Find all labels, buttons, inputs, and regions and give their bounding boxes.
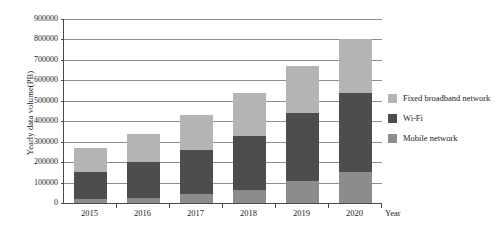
- x-tick-mark: [222, 204, 223, 208]
- legend-item[interactable]: Mobile network: [388, 128, 490, 148]
- stacked-bar-chart: Yearly data volume(PB) 90000080000070000…: [0, 0, 501, 234]
- y-axis-title: Yearly data volume(PB): [25, 23, 35, 203]
- bar-segment[interactable]: [180, 150, 213, 194]
- legend-item-label: Fixed broadband network: [403, 94, 490, 103]
- x-tick-label: 2019: [275, 209, 328, 218]
- y-tick-mark: [61, 183, 64, 184]
- x-tick-mark: [381, 204, 382, 208]
- bar-segment[interactable]: [286, 181, 319, 203]
- gridline: [64, 80, 382, 81]
- bar-segment[interactable]: [74, 172, 107, 199]
- bar-segment[interactable]: [180, 115, 213, 150]
- x-tick-mark: [116, 204, 117, 208]
- y-tick-label: 300000: [12, 138, 58, 146]
- legend-item-label: Wi-Fi: [403, 114, 423, 123]
- bar-segment[interactable]: [180, 194, 213, 203]
- y-tick-label: 800000: [12, 35, 58, 43]
- y-tick-label: 200000: [12, 158, 58, 166]
- y-tick-label: 500000: [12, 97, 58, 105]
- legend-item[interactable]: Fixed broadband network: [388, 88, 490, 108]
- gridline: [64, 162, 382, 163]
- x-tick-label: 2017: [169, 209, 222, 218]
- bar-segment[interactable]: [74, 148, 107, 173]
- x-tick-mark: [169, 204, 170, 208]
- bar-group[interactable]: [339, 39, 372, 203]
- legend-swatch-icon: [388, 134, 397, 143]
- x-tick-mark: [275, 204, 276, 208]
- y-tick-mark: [61, 162, 64, 163]
- bar-group[interactable]: [74, 148, 107, 203]
- bar-segment[interactable]: [127, 162, 160, 198]
- bar-group[interactable]: [233, 93, 266, 203]
- bar-segment[interactable]: [127, 134, 160, 163]
- legend-swatch-icon: [388, 114, 397, 123]
- y-tick-label: 600000: [12, 76, 58, 84]
- bar-group[interactable]: [127, 134, 160, 204]
- bar-segment[interactable]: [233, 93, 266, 136]
- legend-item[interactable]: Wi-Fi: [388, 108, 490, 128]
- gridline: [64, 19, 382, 20]
- y-tick-mark: [61, 39, 64, 40]
- gridline: [64, 60, 382, 61]
- gridline: [64, 183, 382, 184]
- bar-group[interactable]: [180, 115, 213, 203]
- y-tick-mark: [61, 19, 64, 20]
- y-tick-mark: [61, 60, 64, 61]
- bar-segment[interactable]: [233, 190, 266, 203]
- gridline: [64, 121, 382, 122]
- gridline: [64, 101, 382, 102]
- y-tick-mark: [61, 121, 64, 122]
- legend-swatch-icon: [388, 94, 397, 103]
- y-tick-label: 0: [12, 199, 58, 207]
- y-tick-label: 700000: [12, 56, 58, 64]
- x-tick-label: 2018: [222, 209, 275, 218]
- bar-segment[interactable]: [339, 39, 372, 92]
- gridline: [64, 39, 382, 40]
- y-tick-label: 900000: [12, 15, 58, 23]
- x-tick-label: 2016: [116, 209, 169, 218]
- bar-segment[interactable]: [233, 136, 266, 190]
- bar-segment[interactable]: [127, 198, 160, 203]
- plot-area: [63, 19, 382, 204]
- x-tick-mark: [328, 204, 329, 208]
- y-tick-mark: [61, 142, 64, 143]
- bar-segment[interactable]: [286, 113, 319, 180]
- bar-segment[interactable]: [339, 172, 372, 203]
- bar-segment[interactable]: [339, 93, 372, 173]
- y-tick-mark: [61, 203, 64, 204]
- y-tick-label: 100000: [12, 179, 58, 187]
- bar-group[interactable]: [286, 66, 319, 203]
- y-tick-label: 400000: [12, 117, 58, 125]
- gridline: [64, 142, 382, 143]
- chart-legend: Fixed broadband networkWi-FiMobile netwo…: [388, 88, 490, 148]
- x-tick-label: 2020: [328, 209, 381, 218]
- y-tick-mark: [61, 101, 64, 102]
- bar-segment[interactable]: [286, 66, 319, 113]
- legend-item-label: Mobile network: [403, 134, 458, 143]
- x-axis-title: Year: [385, 209, 401, 218]
- bar-segment[interactable]: [74, 199, 107, 203]
- y-tick-mark: [61, 80, 64, 81]
- x-tick-label: 2015: [63, 209, 116, 218]
